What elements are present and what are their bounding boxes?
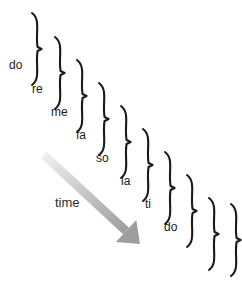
brace-ti-6 <box>165 152 175 224</box>
brace-me-2 <box>77 60 87 132</box>
brace-la-5 <box>143 129 153 201</box>
diagram-canvas <box>0 0 242 285</box>
brace-unlabeled-9 <box>231 204 241 276</box>
brace-unlabeled-8 <box>209 198 219 270</box>
note-label-re-1: re <box>32 83 43 95</box>
note-label-fa-3: fa <box>76 129 86 141</box>
brace-so-4 <box>121 106 131 178</box>
brace-fa-3 <box>99 83 109 155</box>
note-label-do-0: do <box>9 59 22 71</box>
note-label-me-2: me <box>51 106 68 118</box>
time-axis-label: time <box>55 196 80 209</box>
brace-do-7 <box>187 175 197 247</box>
time-arrow-shaft <box>41 152 129 235</box>
brace-do-0 <box>32 13 42 85</box>
brace-re-1 <box>55 37 65 109</box>
note-label-la-5: la <box>121 175 130 187</box>
music-notes-time-diagram: doremefasolatido time <box>0 0 242 285</box>
note-label-ti-6: ti <box>145 198 151 210</box>
note-label-do-7: do <box>164 221 177 233</box>
note-label-so-4: so <box>96 152 109 164</box>
